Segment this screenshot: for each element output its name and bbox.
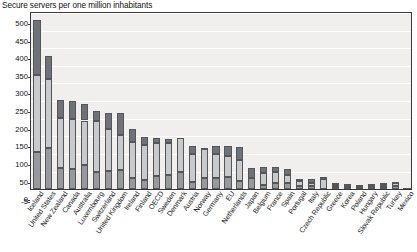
bar-segment-upper-segment bbox=[69, 101, 76, 119]
bar-segment-lower-segment bbox=[153, 176, 160, 189]
bar-segment-upper-segment bbox=[320, 177, 327, 179]
bar-segment-upper-segment bbox=[45, 56, 52, 79]
bar-column[interactable] bbox=[129, 13, 136, 190]
bar-column[interactable] bbox=[224, 13, 231, 190]
bar-segment-middle-segment bbox=[57, 118, 64, 168]
bar-segment-lower-segment bbox=[93, 172, 100, 190]
bar-segment-upper-segment bbox=[129, 129, 136, 142]
bar-segment-upper-segment bbox=[296, 179, 303, 182]
bar-segment-lower-segment bbox=[296, 186, 303, 189]
bar-column[interactable] bbox=[69, 13, 76, 190]
bar-segment-middle-segment bbox=[284, 175, 291, 183]
bar-segment-upper-segment bbox=[105, 113, 112, 129]
bar-column[interactable] bbox=[57, 13, 64, 190]
bar-segment-middle-segment bbox=[272, 172, 279, 182]
bar-segment-middle-segment bbox=[308, 183, 315, 187]
bar-segment-upper-segment bbox=[57, 100, 64, 119]
bar-segment-middle-segment bbox=[189, 154, 196, 182]
bar-segment-lower-segment bbox=[69, 169, 76, 189]
bar-column[interactable] bbox=[332, 13, 339, 190]
bar-segment-middle-segment bbox=[129, 142, 136, 178]
bar-segment-upper-segment bbox=[236, 147, 243, 159]
bar-segment-lower-segment bbox=[57, 168, 64, 189]
bar-column[interactable] bbox=[141, 13, 148, 190]
bar-column[interactable] bbox=[356, 13, 363, 190]
bar-column[interactable] bbox=[236, 13, 243, 190]
bar-column[interactable] bbox=[403, 13, 410, 190]
bar-segment-upper-segment bbox=[344, 184, 351, 186]
bar-column[interactable] bbox=[165, 13, 172, 190]
bar-column[interactable] bbox=[344, 13, 351, 190]
bar-segment-middle-segment bbox=[260, 173, 267, 185]
bar-segment-lower-segment bbox=[129, 178, 136, 189]
bar-column[interactable] bbox=[117, 13, 124, 190]
bar-column[interactable] bbox=[212, 13, 219, 190]
bar-segment-lower-segment bbox=[165, 175, 172, 189]
bar-segment-upper-segment bbox=[201, 148, 208, 150]
y-tick-label: 200 bbox=[2, 126, 28, 134]
bar-segment-upper-segment bbox=[93, 111, 100, 121]
bar-column[interactable] bbox=[153, 13, 160, 190]
x-axis-labels: IcelandUnited StatesNew ZealandCanadaAus… bbox=[30, 190, 412, 252]
bar-segment-middle-segment bbox=[177, 138, 184, 172]
bar-segment-upper-segment bbox=[392, 182, 399, 184]
bar-segment-upper-segment bbox=[33, 20, 40, 75]
bar-segment-upper-segment bbox=[332, 183, 339, 185]
bar-segment-lower-segment bbox=[81, 165, 88, 190]
y-tick-label: 450 bbox=[2, 38, 28, 46]
bar-column[interactable] bbox=[392, 13, 399, 190]
bar-segment-middle-segment bbox=[320, 179, 327, 189]
bar-column[interactable] bbox=[105, 13, 112, 190]
bar-segment-upper-segment bbox=[153, 138, 160, 142]
bar-segment-lower-segment bbox=[141, 180, 148, 189]
y-tick-label: 300 bbox=[2, 90, 28, 98]
bar-column[interactable] bbox=[45, 13, 52, 190]
bar-column[interactable] bbox=[189, 13, 196, 190]
bar-column[interactable] bbox=[272, 13, 279, 190]
bar-segment-lower-segment bbox=[332, 187, 339, 189]
bar-segment-upper-segment bbox=[248, 168, 255, 178]
bar-segment-upper-segment bbox=[81, 104, 88, 121]
bar-column[interactable] bbox=[308, 13, 315, 190]
bar-segment-upper-segment bbox=[356, 185, 363, 187]
bar-column[interactable] bbox=[248, 13, 255, 190]
bar-segment-middle-segment bbox=[69, 119, 76, 168]
bar-column[interactable] bbox=[177, 13, 184, 190]
bar-column[interactable] bbox=[201, 13, 208, 190]
bar-column[interactable] bbox=[296, 13, 303, 190]
bar-segment-middle-segment bbox=[141, 145, 148, 180]
y-tick-label: 0 bbox=[2, 196, 28, 204]
chart-title: Secure servers per one million inhabitan… bbox=[2, 1, 152, 11]
bar-segment-lower-segment bbox=[189, 182, 196, 189]
plot-area bbox=[30, 12, 412, 190]
bar-column[interactable] bbox=[320, 13, 327, 190]
y-tick-label: 100 bbox=[2, 161, 28, 169]
bar-segment-middle-segment bbox=[153, 143, 160, 176]
bar-segment-middle-segment bbox=[224, 156, 231, 177]
bar-segment-lower-segment bbox=[105, 171, 112, 189]
bar-segment-middle-segment bbox=[296, 181, 303, 186]
bar-segment-upper-segment bbox=[224, 146, 231, 156]
bar-column[interactable] bbox=[260, 13, 267, 190]
bar-segment-lower-segment bbox=[45, 148, 52, 189]
bar-segment-lower-segment bbox=[201, 178, 208, 190]
bar-segment-lower-segment bbox=[224, 177, 231, 189]
bar-segment-middle-segment bbox=[380, 185, 387, 187]
bar-column[interactable] bbox=[368, 13, 375, 190]
bar-segment-upper-segment bbox=[380, 183, 387, 185]
bar-column[interactable] bbox=[81, 13, 88, 190]
bar-segment-middle-segment bbox=[212, 154, 219, 178]
bar-column[interactable] bbox=[93, 13, 100, 190]
bar-segment-upper-segment bbox=[368, 184, 375, 186]
bar-segment-middle-segment bbox=[236, 160, 243, 182]
bar-segment-upper-segment bbox=[212, 146, 219, 154]
bar-column[interactable] bbox=[380, 13, 387, 190]
y-axis: -5050100150200250300350400450500 bbox=[0, 12, 28, 190]
bar-column[interactable] bbox=[284, 13, 291, 190]
bar-segment-middle-segment bbox=[165, 143, 172, 175]
bar-segment-upper-segment bbox=[308, 179, 315, 183]
bar-segment-middle-segment bbox=[45, 79, 52, 149]
bar-column[interactable] bbox=[33, 13, 40, 190]
bar-segment-middle-segment bbox=[81, 121, 88, 165]
bar-segment-lower-segment bbox=[284, 183, 291, 189]
